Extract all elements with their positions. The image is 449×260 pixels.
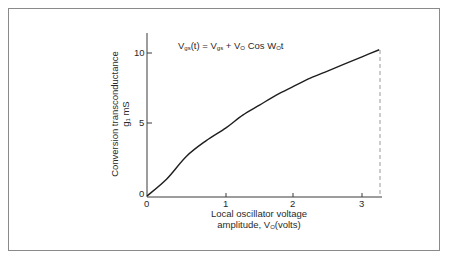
y-tick-label-5: 5 (139, 118, 144, 128)
x-tick-label-3: 3 (359, 199, 364, 209)
x-axis-label-line1: Local oscillator voltage (184, 208, 334, 219)
x-axis-label: Local oscillator voltage amplitude, VO(v… (184, 208, 334, 233)
x-axis-label-line2: amplitude, VO(volts) (184, 219, 334, 233)
formula-annotation: Vgs(t) = Vgs + VO Cos WOt (178, 40, 283, 51)
y-axis-label: Conversion transconductance g₁ mS (109, 44, 131, 184)
y-axis-label-line2: g₁ mS (120, 44, 131, 184)
y-axis-label-line1: Conversion transconductance (109, 44, 120, 184)
x-tick-label-0: 0 (144, 199, 149, 209)
y-tick-label-10: 10 (134, 48, 145, 58)
data-line (147, 50, 379, 196)
